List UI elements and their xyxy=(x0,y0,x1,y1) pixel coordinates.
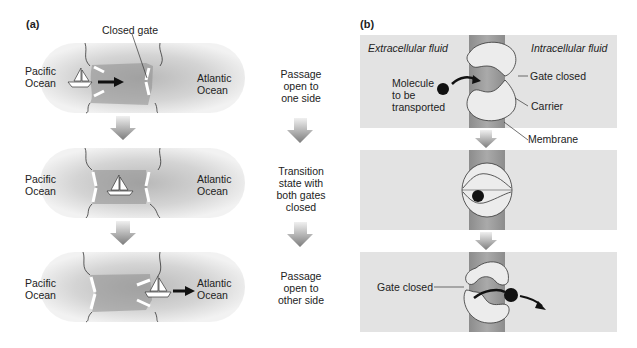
state-label-2: Transitionstate withboth gatesclosed xyxy=(265,165,337,213)
state-label-1: Passageopen toone side xyxy=(265,68,337,104)
atlantic-ocean-label-3: AtlanticOcean xyxy=(197,277,231,301)
state-arrow-1 xyxy=(287,118,313,143)
membrane-frame-2 xyxy=(360,150,617,230)
state-label-3: Passageopen toother side xyxy=(265,270,337,306)
intracellular-fluid-label: Intracellular fluid xyxy=(531,42,607,54)
atlantic-ocean-label-1: AtlanticOcean xyxy=(197,72,231,96)
pacific-ocean-label-3: PacificOcean xyxy=(25,277,56,301)
atlantic-ocean-label-2: AtlanticOcean xyxy=(197,173,231,197)
state-arrow-2 xyxy=(287,222,313,247)
panel-b-label: (b) xyxy=(360,18,374,30)
gate-closed-bottom-label: Gate closed xyxy=(377,281,433,293)
panel-a-label: (a) xyxy=(26,18,39,30)
extracellular-fluid-label: Extracellular fluid xyxy=(368,42,448,54)
down-arrow-a1 xyxy=(110,116,136,140)
gate-closed-top-label: Gate closed xyxy=(530,70,586,82)
molecule-label: Moleculeto betransported xyxy=(392,77,445,113)
closed-gate-callout: Closed gate xyxy=(102,24,158,36)
pacific-ocean-label-2: PacificOcean xyxy=(25,173,56,197)
pacific-ocean-label-1: PacificOcean xyxy=(25,65,56,89)
down-arrow-b1 xyxy=(475,130,497,148)
down-arrow-b2 xyxy=(475,232,497,250)
down-arrow-a2 xyxy=(110,221,136,245)
carrier-label: Carrier xyxy=(531,100,563,112)
membrane-label: Membrane xyxy=(528,133,578,145)
